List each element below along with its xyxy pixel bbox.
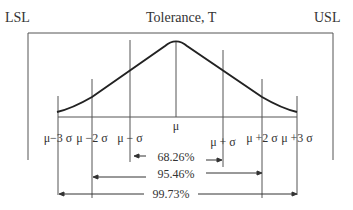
arrow-left-icon xyxy=(59,192,64,196)
arrow-right-icon xyxy=(217,158,222,162)
arrow-left-icon xyxy=(93,175,98,179)
plus2-sigma-label: μ +2 σ xyxy=(246,131,278,145)
lsl-label: LSL xyxy=(5,10,30,25)
coverage-3sigma-label: 99.73% xyxy=(153,187,190,201)
plus1-sigma-label: μ + σ xyxy=(210,135,236,149)
minus1-sigma-label: μ − σ xyxy=(117,131,143,145)
tolerance-label: Tolerance, T xyxy=(146,10,217,25)
distribution-curve xyxy=(57,42,297,113)
minus3-sigma-label: μ−3 σ xyxy=(44,131,73,145)
plus3-sigma-label: μ +3 σ xyxy=(281,131,313,145)
coverage-1sigma-label: 68.26% xyxy=(158,150,195,164)
usl-label: USL xyxy=(314,10,340,25)
minus2-sigma-label: μ −2 σ xyxy=(76,131,108,145)
arrow-right-icon xyxy=(257,171,262,175)
arrow-right-icon xyxy=(292,192,297,196)
normal-distribution-diagram: LSL USL Tolerance, T μ μ−3 σ μ −2 σ μ − … xyxy=(0,0,353,210)
arrow-left-icon xyxy=(134,154,139,158)
mean-label: μ xyxy=(173,119,179,133)
coverage-2sigma-label: 95.46% xyxy=(158,167,195,181)
